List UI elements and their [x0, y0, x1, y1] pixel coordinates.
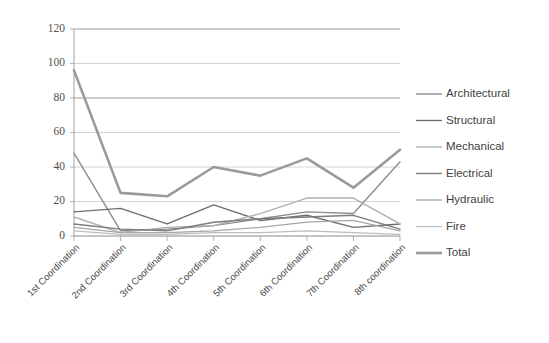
- legend-item-electrical[interactable]: Electrical: [416, 167, 493, 179]
- legend-label: Structural: [446, 114, 495, 126]
- legend-label: Electrical: [446, 167, 493, 179]
- y-tick-marks-group: [70, 29, 74, 236]
- x-tick-marks-group: [74, 236, 400, 241]
- y-axis-tick-labels: 120100806040200: [48, 22, 66, 241]
- legend-label: Mechanical: [446, 140, 504, 152]
- legend-label: Architectural: [446, 87, 510, 99]
- line-chart: 120100806040200 1st Coordination2nd Coor…: [0, 0, 549, 343]
- gridlines-group: [74, 29, 400, 236]
- legend-label: Hydraulic: [446, 193, 494, 205]
- series-line-total: [74, 70, 400, 196]
- legend-label: Fire: [446, 220, 466, 232]
- legend-item-hydraulic[interactable]: Hydraulic: [416, 193, 494, 205]
- legend-item-total[interactable]: Total: [416, 246, 470, 258]
- data-series-group: [74, 70, 400, 234]
- legend-item-mechanical[interactable]: Mechanical: [416, 140, 504, 152]
- y-tick-label: 0: [59, 229, 65, 241]
- legend-item-fire[interactable]: Fire: [416, 220, 466, 232]
- chart-container: 120100806040200 1st Coordination2nd Coor…: [0, 0, 549, 343]
- y-tick-label: 100: [48, 56, 66, 68]
- y-tick-label: 40: [54, 160, 66, 172]
- legend-item-architectural[interactable]: Architectural: [416, 87, 510, 99]
- legend-label: Total: [446, 246, 470, 258]
- y-tick-label: 20: [54, 194, 66, 206]
- chart-legend: ArchitecturalStructuralMechanicalElectri…: [416, 87, 510, 258]
- series-line-structural: [74, 205, 400, 227]
- legend-item-structural[interactable]: Structural: [416, 114, 495, 126]
- y-tick-label: 60: [54, 125, 66, 137]
- y-tick-label: 120: [48, 22, 66, 34]
- x-axis-tick-labels: 1st Coordination2nd Coordination3rd Coor…: [25, 242, 408, 301]
- y-tick-label: 80: [54, 91, 66, 103]
